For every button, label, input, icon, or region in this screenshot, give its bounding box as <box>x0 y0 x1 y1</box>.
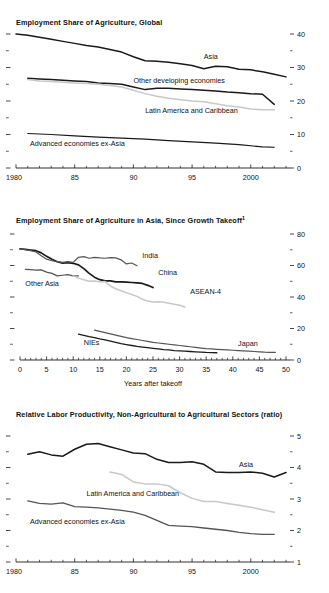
x-tick-label: 20 <box>122 365 130 374</box>
series-label: Advanced economies ex-Asia <box>30 139 125 148</box>
y-tick-label: 10 <box>297 130 305 139</box>
y-tick-label: 20 <box>297 97 305 106</box>
x-tick-label: 85 <box>71 567 79 576</box>
panel2-plot: 05101520253035404550020406080Years after… <box>0 196 329 392</box>
x-tick-label: 2000 <box>243 567 259 576</box>
series-label: NIEs <box>84 338 100 347</box>
y-tick-label: 2 <box>297 526 301 535</box>
series-line <box>73 276 185 307</box>
figure-root: Employment Share of Agriculture, Global … <box>0 0 329 593</box>
series-label: ASEAN-4 <box>190 287 221 296</box>
x-tick-label: 15 <box>96 365 104 374</box>
x-axis-title: Years after takeoff <box>124 379 182 388</box>
x-tick-label: 45 <box>255 365 263 374</box>
x-tick-label: 95 <box>188 173 196 182</box>
y-tick-label: 20 <box>297 324 305 333</box>
y-tick-label: 30 <box>297 63 305 72</box>
series-label: Latin America and Caribbean <box>145 106 238 115</box>
x-tick-label: 90 <box>129 567 137 576</box>
x-tick-label: 40 <box>229 365 237 374</box>
series-label: Asia <box>239 460 253 469</box>
y-tick-label: 40 <box>297 30 305 39</box>
x-tick-label: 0 <box>18 365 22 374</box>
x-tick-label: 25 <box>149 365 157 374</box>
x-tick-label: 30 <box>176 365 184 374</box>
x-tick-label: 1980 <box>6 567 22 576</box>
y-tick-label: 4 <box>297 463 301 472</box>
x-tick-label: 35 <box>202 365 210 374</box>
y-tick-label: 60 <box>297 261 305 270</box>
chart-panel-employment-share-global: Employment Share of Agriculture, Global … <box>0 0 329 196</box>
series-label: India <box>142 251 158 260</box>
x-tick-label: 85 <box>71 173 79 182</box>
x-tick-label: 1980 <box>6 173 22 182</box>
x-tick-label: 10 <box>69 365 77 374</box>
series-label: Other developing economies <box>133 76 225 85</box>
series-label: Other Asia <box>25 279 59 288</box>
y-tick-label: 3 <box>297 495 301 504</box>
series-line <box>16 34 286 77</box>
y-tick-label: 0 <box>297 164 301 173</box>
panel3-plot: 1980859095200012345AsiaLatin America and… <box>0 392 329 593</box>
series-label: Advanced economies ex-Asia <box>30 517 125 526</box>
y-tick-label: 5 <box>297 432 301 441</box>
x-tick-label: 5 <box>45 365 49 374</box>
series-label: China <box>158 268 177 277</box>
y-tick-label: 80 <box>297 230 305 239</box>
series-label: Latin America and Caribbean <box>86 489 179 498</box>
chart-panel-employment-share-asia: Employment Share of Agriculture in Asia,… <box>0 196 329 392</box>
x-tick-label: 50 <box>282 365 290 374</box>
x-tick-label: 90 <box>129 173 137 182</box>
x-tick-label: 2000 <box>243 173 259 182</box>
panel1-plot: 19808590952000010203040AsiaOther develop… <box>0 0 329 196</box>
series-label: Japan <box>238 339 258 348</box>
y-tick-label: 1 <box>297 558 301 567</box>
x-tick-label: 95 <box>188 567 196 576</box>
series-line <box>25 269 78 276</box>
y-tick-label: 40 <box>297 293 305 302</box>
series-label: Asia <box>204 52 218 61</box>
y-tick-label: 0 <box>297 356 301 365</box>
chart-panel-relative-labor-productivity: Relative Labor Productivity, Non-Agricul… <box>0 392 329 593</box>
